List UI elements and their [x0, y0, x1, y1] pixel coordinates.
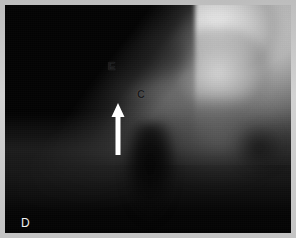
condyle-label: C — [137, 89, 145, 100]
skull-base-density — [155, 5, 285, 71]
figure-panel: E C D — [0, 0, 296, 238]
posterior-dark-pocket — [227, 117, 291, 179]
eminence-label: E — [108, 61, 115, 72]
soft-tissue-density-field — [5, 5, 291, 165]
articular-eminence-density — [53, 5, 193, 99]
joint-space-shadow — [105, 26, 210, 97]
up-arrow-icon — [105, 100, 131, 158]
radiograph-image: E C D — [5, 5, 291, 233]
condyle-density — [163, 23, 283, 127]
panel-letter-label: D — [21, 217, 30, 229]
anterior-dark-wedge — [5, 5, 195, 233]
inferior-dark-band — [5, 113, 291, 233]
ramus-density — [173, 97, 291, 207]
film-grain-texture — [5, 5, 291, 233]
